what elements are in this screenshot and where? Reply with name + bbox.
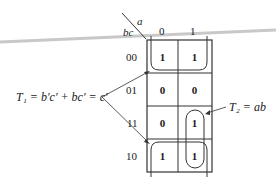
row-header-10: 10 [126, 151, 137, 162]
column-variable-label: a [137, 16, 143, 27]
cell-01-1: 0 [179, 73, 210, 106]
t1-equation: T₁ = b′c′ + bc′ = c′ [16, 90, 108, 105]
row-header-00: 00 [126, 52, 137, 63]
cell-10-0: 1 [147, 139, 178, 172]
row-variable-label: bc [123, 27, 133, 38]
cell-01-0: 0 [147, 73, 178, 106]
cell-00-1: 1 [179, 40, 210, 73]
row-header-11: 11 [127, 118, 138, 129]
t2-equation: T₂ = ab [229, 100, 266, 115]
column-header-1: 1 [190, 26, 196, 37]
cell-11-1: 1 [179, 106, 210, 139]
cell-10-1: 1 [179, 139, 210, 172]
column-header-0: 0 [159, 26, 165, 37]
row-header-01: 01 [126, 85, 137, 96]
cell-11-0: 0 [147, 106, 178, 139]
cell-00-0: 1 [147, 40, 178, 73]
